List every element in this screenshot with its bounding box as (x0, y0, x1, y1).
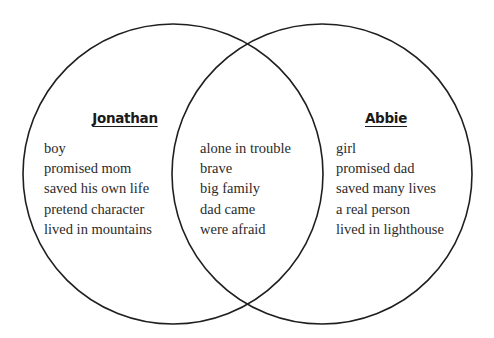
list-item: a real person (336, 199, 444, 219)
right-set-title: Abbie (365, 110, 407, 126)
intersection-item-list: alone in trouble brave big family dad ca… (200, 138, 291, 239)
list-item: big family (200, 178, 291, 198)
list-item: lived in mountains (44, 219, 152, 239)
list-item: saved many lives (336, 178, 444, 198)
list-item: saved his own life (44, 178, 152, 198)
list-item: dad came (200, 199, 291, 219)
list-item: promised mom (44, 158, 152, 178)
list-item: lived in lighthouse (336, 219, 444, 239)
list-item: were afraid (200, 219, 291, 239)
list-item: boy (44, 138, 152, 158)
left-set-item-list: boy promised mom saved his own life pret… (44, 138, 152, 239)
list-item: promised dad (336, 158, 444, 178)
list-item: pretend character (44, 199, 152, 219)
list-item: girl (336, 138, 444, 158)
list-item: alone in trouble (200, 138, 291, 158)
left-set-title: Jonathan (92, 110, 157, 126)
list-item: brave (200, 158, 291, 178)
right-set-item-list: girl promised dad saved many lives a rea… (336, 138, 444, 239)
venn-diagram-canvas: Jonathan Abbie boy promised mom saved hi… (0, 0, 494, 338)
